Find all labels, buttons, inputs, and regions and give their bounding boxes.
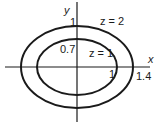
curve-label-z1: z = 1 [89,47,113,59]
inner-x-tick-label: 1 [109,68,115,80]
outer-y-tick-label: 1 [70,16,76,28]
level-curves-diagram: y x 1 0.7 1 1.4 z = 2 z = 1 [0,0,159,130]
y-axis-label: y [63,4,71,16]
curve-label-z2: z = 2 [100,15,124,27]
inner-y-tick-label: 0.7 [60,43,75,55]
x-axis-label: x [147,53,154,65]
outer-x-tick-label: 1.4 [136,70,151,82]
